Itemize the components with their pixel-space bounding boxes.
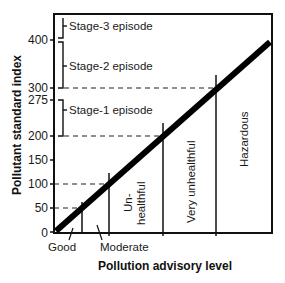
stage-1-label: Stage-1 episode xyxy=(69,104,153,116)
tick-label-0: 0 xyxy=(41,226,48,240)
tick-label-50: 50 xyxy=(35,201,49,215)
category-label-unhealthful-1: Un- xyxy=(122,193,134,212)
x-axis-title: Pollution advisory level xyxy=(98,259,232,273)
category-label-moderate: Moderate xyxy=(100,241,149,253)
tick-label-400: 400 xyxy=(28,33,48,47)
y-axis-title: Pollutant standard index xyxy=(10,55,24,195)
stage-2-label: Stage-2 episode xyxy=(69,60,153,72)
bracket-stage-1 xyxy=(58,100,63,136)
tick-label-100: 100 xyxy=(28,177,48,191)
tick-label-150: 150 xyxy=(28,153,48,167)
psi-diagram: 400 300 275 200 150 100 50 0 Stage-3 epi… xyxy=(0,0,285,283)
stage-3-label: Stage-3 episode xyxy=(69,20,153,32)
y-tick-labels: 400 300 275 200 150 100 50 0 xyxy=(28,33,48,240)
tick-label-275: 275 xyxy=(28,93,48,107)
category-label-hazardous: Hazardous xyxy=(238,111,250,167)
category-label-unhealthful-2: healthful xyxy=(135,182,147,225)
tick-label-200: 200 xyxy=(28,129,48,143)
category-label-very-unhealthful: Very unhealthful xyxy=(185,141,197,223)
category-label-good: Good xyxy=(48,241,76,253)
bracket-stage-3 xyxy=(58,18,63,38)
episode-brackets xyxy=(58,18,67,136)
bracket-stage-2 xyxy=(58,42,63,88)
